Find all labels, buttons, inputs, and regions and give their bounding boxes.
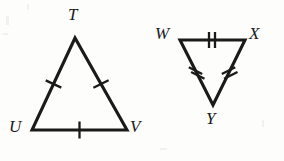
vertex-label-w: W: [155, 25, 169, 42]
triangle-wxy: [180, 32, 245, 105]
vertex-label-u: U: [9, 118, 21, 135]
geometry-figure: T U V W X Y: [0, 0, 284, 161]
triangle-tuv-outline: [32, 38, 127, 130]
vertex-label-t: T: [68, 6, 77, 23]
vertex-label-v: V: [130, 118, 140, 135]
triangles-svg: [0, 0, 284, 161]
triangle-tuv: [32, 38, 127, 139]
vertex-label-x: X: [249, 25, 259, 42]
vertex-label-y: Y: [206, 110, 215, 127]
